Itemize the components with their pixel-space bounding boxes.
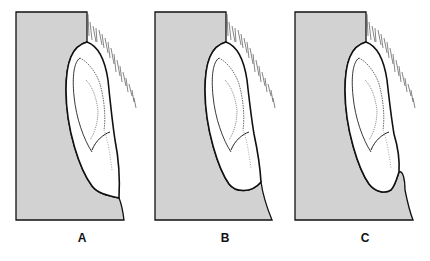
ear-panel-c: C <box>279 0 422 261</box>
ear-panel-b: B <box>139 0 282 261</box>
ear-drawing-attached-lobe <box>0 0 143 261</box>
ear-drawing-free-lobe <box>139 0 282 261</box>
panel-label-b: B <box>215 231 235 245</box>
ear-panel-a: A <box>0 0 143 261</box>
panel-label-c: C <box>355 231 375 245</box>
panel-label-a: A <box>72 231 92 245</box>
ear-drawing-notched-lobe <box>279 0 430 261</box>
